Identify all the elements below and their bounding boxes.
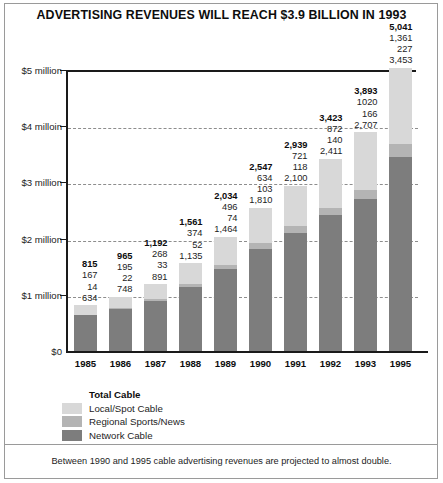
bar-segment-local bbox=[74, 305, 97, 314]
x-axis-line bbox=[66, 351, 428, 353]
x-axis-tick-label-1990: 1990 bbox=[241, 358, 281, 369]
bar-1985 bbox=[74, 305, 97, 351]
bar-segment-regional bbox=[319, 208, 342, 216]
y-axis-tick-label: $4 milloin bbox=[0, 121, 62, 132]
bar-label-regional: 103 bbox=[229, 184, 273, 195]
y-axis-tick-mark bbox=[60, 70, 66, 71]
y-axis-tick-label: $5 million bbox=[0, 65, 62, 76]
bar-1990 bbox=[249, 208, 272, 351]
bar-label-local: 1020 bbox=[334, 97, 378, 108]
bar-segment-network bbox=[179, 287, 202, 351]
bar-label-regional: 74 bbox=[194, 213, 238, 224]
footnote-divider bbox=[5, 444, 437, 445]
y-axis-tick-mark bbox=[60, 126, 66, 127]
bar-segment-local bbox=[179, 263, 202, 284]
bar-label-network: 891 bbox=[124, 272, 168, 283]
bar-1992 bbox=[319, 159, 342, 351]
bar-segment-local bbox=[284, 186, 307, 227]
bar-segment-regional bbox=[284, 226, 307, 233]
bar-1991 bbox=[284, 186, 307, 351]
bar-value-labels-1995: 5,0411,3612273,453 bbox=[369, 22, 413, 67]
bar-segment-local bbox=[214, 237, 237, 265]
legend-item-network-cable: Network Cable bbox=[62, 429, 322, 442]
x-axis-tick-label-1993: 1993 bbox=[346, 358, 386, 369]
bar-label-network: 2,411 bbox=[299, 146, 343, 157]
legend-swatch-regional-sports-news bbox=[62, 416, 82, 427]
y-axis-tick-mark bbox=[60, 239, 66, 240]
chart-page: ADVERTISING REVENUES WILL REACH $3.9 BIL… bbox=[0, 0, 443, 483]
bar-label-regional: 140 bbox=[299, 135, 343, 146]
bar-segment-local bbox=[319, 159, 342, 208]
legend-swatch-placeholder bbox=[62, 389, 82, 400]
x-axis-tick-label-1991: 1991 bbox=[276, 358, 316, 369]
y-axis-labels: $0$1 million$2 million$3 million$4 millo… bbox=[0, 0, 62, 483]
legend-item-regional-sports-news: Regional Sports/News bbox=[62, 415, 322, 428]
x-axis-tick-label-1992: 1992 bbox=[311, 358, 351, 369]
legend-label-local-spot-cable: Local/Spot Cable bbox=[89, 403, 163, 414]
bar-label-network: 1,135 bbox=[159, 251, 203, 262]
legend-item-local-spot-cable: Local/Spot Cable bbox=[62, 402, 322, 415]
bar-segment-local bbox=[249, 208, 272, 244]
bar-1995 bbox=[389, 68, 412, 351]
y-axis-tick-label: $0 bbox=[0, 346, 62, 357]
legend-swatch-network-cable bbox=[62, 430, 82, 441]
x-axis-tick-label-1989: 1989 bbox=[206, 358, 246, 369]
bar-1989 bbox=[214, 237, 237, 351]
bar-segment-network bbox=[249, 249, 272, 351]
bar-segment-regional bbox=[354, 190, 377, 199]
legend-label-regional-sports-news: Regional Sports/News bbox=[89, 416, 185, 427]
bar-label-regional: 52 bbox=[159, 240, 203, 251]
page-title: ADVERTISING REVENUES WILL REACH $3.9 BIL… bbox=[0, 8, 443, 22]
legend-heading-label: Total Cable bbox=[89, 389, 141, 400]
y-axis-tick-label: $2 million bbox=[0, 233, 62, 244]
legend-heading-row: Total Cable bbox=[62, 388, 322, 401]
x-axis-tick-label-1985: 1985 bbox=[66, 358, 106, 369]
x-axis-tick-label-1995: 1995 bbox=[381, 358, 421, 369]
y-axis-tick-label: $3 million bbox=[0, 177, 62, 188]
bar-segment-local bbox=[109, 297, 132, 308]
bar-value-labels-1993: 3,89310201662,707 bbox=[334, 86, 378, 131]
bar-1986 bbox=[109, 297, 132, 351]
bar-1993 bbox=[354, 132, 377, 351]
bar-segment-network bbox=[109, 309, 132, 351]
legend-swatch-local-spot-cable bbox=[62, 403, 82, 414]
bar-label-network: 1,464 bbox=[194, 224, 238, 235]
x-axis-tick-label-1988: 1988 bbox=[171, 358, 211, 369]
bar-segment-local bbox=[144, 284, 167, 299]
bar-segment-network bbox=[144, 301, 167, 351]
bar-1987 bbox=[144, 284, 167, 351]
bar-label-total: 3,893 bbox=[334, 86, 378, 97]
bar-segment-local bbox=[354, 132, 377, 189]
x-axis-tick-label-1987: 1987 bbox=[136, 358, 176, 369]
bar-label-regional: 33 bbox=[124, 260, 168, 271]
bar-segment-network bbox=[354, 199, 377, 351]
legend-label-network-cable: Network Cable bbox=[89, 430, 153, 441]
bar-segment-regional bbox=[389, 144, 412, 157]
bar-label-network: 2,707 bbox=[334, 120, 378, 131]
footnote-text: Between 1990 and 1995 cable advertising … bbox=[0, 456, 443, 466]
y-axis-tick-mark bbox=[60, 182, 66, 183]
bar-label-regional: 166 bbox=[334, 109, 378, 120]
bar-1988 bbox=[179, 263, 202, 351]
bar-label-network: 748 bbox=[89, 284, 133, 295]
bar-segment-network bbox=[74, 315, 97, 351]
bar-label-total: 5,041 bbox=[369, 22, 413, 33]
bar-label-network: 1,810 bbox=[229, 195, 273, 206]
bar-label-network: 3,453 bbox=[369, 55, 413, 66]
bar-label-local: 1,361 bbox=[369, 33, 413, 44]
bar-segment-network bbox=[389, 157, 412, 351]
bar-segment-network bbox=[284, 233, 307, 351]
bar-segment-network bbox=[319, 215, 342, 350]
bar-label-network: 2,100 bbox=[264, 173, 308, 184]
x-axis-tick-label-1986: 1986 bbox=[101, 358, 141, 369]
bar-segment-local bbox=[389, 68, 412, 144]
bar-segment-network bbox=[214, 269, 237, 351]
chart-legend: Total Cable Local/Spot Cable Regional Sp… bbox=[62, 388, 322, 442]
bar-label-regional: 118 bbox=[264, 162, 308, 173]
bar-label-regional: 227 bbox=[369, 44, 413, 55]
